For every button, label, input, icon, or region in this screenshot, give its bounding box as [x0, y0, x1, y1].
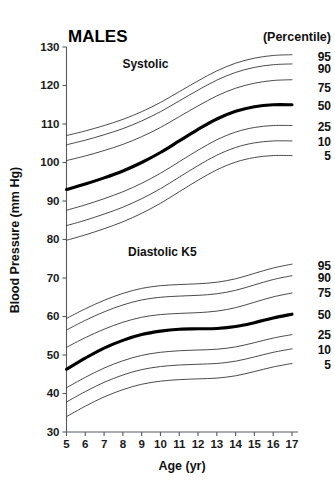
x-axis-tick-label: 7 — [101, 438, 107, 450]
y-axis-tick-label: 130 — [40, 41, 59, 53]
series-annotation-diastolic-k5: Diastolic K5 — [128, 245, 197, 259]
percentile-label-diastolic-k5-5: 5 — [324, 358, 331, 372]
y-axis-tick-label: 100 — [40, 156, 59, 168]
percentile-label-diastolic-k5-10: 10 — [318, 343, 332, 357]
series-annotation-systolic: Systolic — [122, 57, 168, 71]
percentile-curve-diastolic-k5-10 — [67, 349, 293, 402]
percentile-label-systolic-50: 50 — [318, 99, 332, 113]
y-axis-tick-label: 110 — [41, 118, 60, 130]
percentile-label-diastolic-k5-50: 50 — [318, 308, 332, 322]
y-axis-ticks: 30405060708090100110120130 — [40, 41, 66, 438]
x-axis-tick-label: 13 — [210, 438, 223, 450]
percentile-curves — [67, 55, 293, 417]
x-axis-tick-label: 16 — [267, 438, 280, 450]
legend-title: (Percentile) — [263, 30, 331, 44]
percentile-curve-systolic-5 — [67, 155, 293, 240]
percentile-curve-systolic-10 — [67, 141, 293, 226]
y-axis-tick-label: 40 — [47, 387, 60, 399]
x-axis-tick-label: 17 — [286, 438, 299, 450]
y-axis-tick-label: 120 — [40, 79, 59, 91]
percentile-label-systolic-25: 25 — [318, 120, 332, 134]
chart-canvas: MALES (Percentile) 304050607080901001101… — [0, 0, 335, 485]
x-axis-ticks: 567891011121314151617 — [63, 432, 298, 450]
percentile-label-systolic-5: 5 — [324, 149, 331, 163]
x-axis-tick-label: 14 — [229, 438, 242, 450]
percentile-curve-diastolic-k5-5 — [67, 363, 293, 416]
x-axis-tick-label: 8 — [120, 438, 127, 450]
x-axis-tick-label: 10 — [154, 438, 167, 450]
x-axis-tick-label: 9 — [138, 438, 144, 450]
percentile-curve-diastolic-k5-75 — [67, 293, 293, 347]
y-axis-tick-label: 30 — [47, 426, 60, 438]
percentile-curve-systolic-90 — [67, 64, 293, 145]
page-title: MALES — [68, 27, 128, 46]
percentile-label-diastolic-k5-25: 25 — [318, 328, 332, 342]
y-axis-tick-label: 60 — [47, 310, 60, 322]
percentile-labels: 95907550251059590755025105 — [318, 50, 332, 372]
chart-title-group: MALES — [68, 27, 128, 46]
percentile-label-systolic-90: 90 — [318, 62, 332, 76]
legend-header-group: (Percentile) — [263, 30, 331, 44]
y-axis-tick-label: 50 — [47, 349, 60, 361]
y-axis-tick-label: 90 — [47, 195, 60, 207]
percentile-label-systolic-75: 75 — [318, 81, 332, 95]
y-axis-title: Blood Pressure (mm Hg) — [8, 167, 22, 314]
percentile-label-diastolic-k5-90: 90 — [318, 271, 332, 285]
x-axis-tick-label: 6 — [82, 438, 88, 450]
blood-pressure-percentile-chart: MALES (Percentile) 304050607080901001101… — [0, 0, 335, 485]
percentile-label-systolic-10: 10 — [318, 135, 332, 149]
x-axis-tick-label: 11 — [173, 438, 186, 450]
percentile-label-diastolic-k5-75: 75 — [318, 286, 332, 300]
percentile-curve-systolic-25 — [67, 125, 293, 210]
x-axis-tick-label: 15 — [248, 438, 261, 450]
x-axis-tick-label: 12 — [192, 438, 205, 450]
x-axis-title: Age (yr) — [158, 459, 205, 473]
percentile-curve-diastolic-k5-95 — [67, 264, 293, 318]
y-axis-tick-label: 70 — [47, 272, 60, 284]
x-axis-tick-label: 5 — [63, 438, 70, 450]
y-axis-tick-label: 80 — [47, 233, 60, 245]
